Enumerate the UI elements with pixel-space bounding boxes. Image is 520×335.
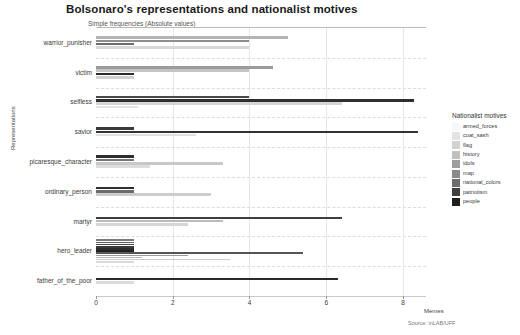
legend-item-armed_forces[interactable]: armed_forces	[452, 122, 518, 131]
y-axis-label-father_of_the_poor: father_of_the_poor	[37, 277, 92, 284]
legend-item-idols[interactable]: idols	[452, 160, 518, 169]
legend-item-people[interactable]: people	[452, 197, 518, 206]
bar	[96, 73, 134, 76]
bar	[96, 190, 134, 193]
legend-item-patriotism[interactable]: patriotism	[452, 188, 518, 197]
legend-label-history: history	[463, 152, 479, 158]
legend-swatch-history	[452, 151, 460, 159]
bar	[96, 193, 211, 196]
legend-label-flag: flag	[463, 143, 472, 149]
bar	[96, 159, 134, 162]
legend-label-idols: idols	[463, 161, 475, 167]
plot-border-bottom	[96, 296, 426, 297]
bar	[96, 69, 249, 72]
legend-swatch-coat_sash	[452, 132, 460, 140]
y-axis-label-selfless: selfless	[70, 98, 92, 105]
legend-label-people: people	[463, 199, 480, 205]
bar	[96, 223, 188, 226]
x-tick-mark-2	[173, 296, 174, 299]
bar-group	[96, 236, 426, 266]
legend-label-map: map	[463, 171, 474, 177]
bar-group	[96, 147, 426, 177]
bar	[96, 217, 342, 220]
chart-canvas: Bolsonaro's representations and national…	[0, 0, 520, 335]
chart-subtitle: Simple frequencies (Absolute values)	[88, 20, 195, 27]
bar	[96, 187, 134, 190]
bar-group	[96, 266, 426, 296]
legend-swatch-idols	[452, 160, 460, 168]
x-tick-6: 6	[324, 299, 328, 306]
legend-swatch-national_colors	[452, 179, 460, 187]
bar	[96, 281, 134, 284]
bar-group	[96, 58, 426, 88]
bar	[96, 106, 138, 109]
legend-swatch-map	[452, 170, 460, 178]
bar	[96, 134, 196, 137]
bar	[96, 43, 134, 46]
bar	[96, 127, 134, 130]
legend-item-coat_sash[interactable]: coat_sash	[452, 131, 518, 140]
bar-group	[96, 117, 426, 147]
bar	[96, 261, 134, 263]
bar	[96, 66, 273, 69]
x-tick-mark-8	[403, 296, 404, 299]
x-tick-mark-4	[249, 296, 250, 299]
y-axis-label-picaresque_character: picaresque_character	[29, 158, 92, 165]
y-axis-label-warrior_punisher: warrior_punisher	[44, 39, 92, 46]
legend-item-history[interactable]: history	[452, 150, 518, 159]
y-axis-label-ordinary_person: ordinary_person	[45, 188, 92, 195]
legend-item-national_colors[interactable]: national_colors	[452, 178, 518, 187]
y-axis-title: Representations	[10, 106, 16, 150]
bar	[96, 40, 249, 43]
legend-items: armed_forcescoat_sashflaghistoryidolsmap…	[452, 122, 518, 207]
x-tick-4: 4	[248, 299, 252, 306]
legend-item-map[interactable]: map	[452, 169, 518, 178]
bar	[96, 155, 134, 158]
bar	[96, 162, 223, 165]
legend-swatch-patriotism	[452, 188, 460, 196]
legend-label-armed_forces: armed_forces	[463, 124, 497, 130]
y-axis-label-savior: savior	[75, 128, 92, 135]
bar	[96, 99, 414, 102]
bar	[96, 36, 288, 39]
bar-group	[96, 88, 426, 118]
y-axis-label-martyr: martyr	[74, 218, 92, 225]
bar-group	[96, 207, 426, 237]
x-tick-2: 2	[171, 299, 175, 306]
bar	[96, 46, 249, 49]
legend-label-national_colors: national_colors	[463, 180, 501, 186]
bar-group	[96, 28, 426, 58]
x-tick-8: 8	[401, 299, 405, 306]
bar	[96, 165, 150, 168]
bar	[96, 220, 223, 223]
x-tick-mark-6	[326, 296, 327, 299]
x-axis-title: Memes	[424, 308, 444, 314]
bar	[96, 102, 342, 105]
bar	[96, 76, 134, 79]
legend: Nationalist motives armed_forcescoat_sas…	[452, 112, 518, 207]
x-tick-mark-0	[96, 296, 97, 299]
bar	[96, 131, 418, 134]
chart-title: Bolsonaro's representations and national…	[66, 3, 358, 15]
legend-title: Nationalist motives	[452, 112, 518, 119]
legend-swatch-flag	[452, 141, 460, 149]
legend-swatch-people	[452, 198, 460, 206]
bar-group	[96, 177, 426, 207]
bar	[96, 278, 338, 281]
legend-item-flag[interactable]: flag	[452, 141, 518, 150]
y-axis-label-hero_leader: hero_leader	[57, 247, 92, 254]
plot-area	[96, 28, 426, 296]
y-axis-label-victim: victim	[75, 69, 92, 76]
bar	[96, 96, 249, 99]
x-tick-0: 0	[94, 299, 98, 306]
legend-label-patriotism: patriotism	[463, 190, 487, 196]
legend-label-coat_sash: coat_sash	[463, 133, 489, 139]
source-note: Source: inLAB/UFF	[408, 320, 455, 326]
legend-swatch-armed_forces	[452, 123, 460, 131]
